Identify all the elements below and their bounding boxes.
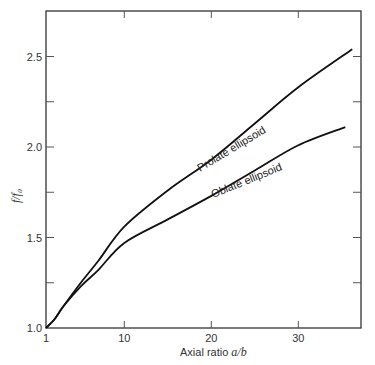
- x-tick-label: 20: [205, 332, 217, 344]
- curves: [46, 49, 352, 328]
- annotation-oblate-ellipsoid: Oblate ellipsoid: [209, 161, 283, 200]
- curve-prolate-ellipsoid: [46, 49, 352, 328]
- y-tick-label: 2.0: [27, 141, 42, 153]
- annotation-prolate-ellipsoid: Prolate ellipsoid: [195, 123, 268, 173]
- x-axis-label-var: a/b: [231, 345, 246, 359]
- curve-oblate-ellipsoid: [46, 127, 345, 328]
- y-tick-label: 1.5: [27, 232, 42, 244]
- y-tick-label: 1.0: [27, 322, 42, 334]
- x-axis-label-text: Axial ratio: [180, 346, 231, 358]
- y-axis-label: f/f₀: [9, 189, 23, 203]
- x-tick-label: 30: [292, 332, 304, 344]
- x-tick-label: 10: [118, 332, 130, 344]
- ticks: 11020301.01.52.02.5: [27, 11, 361, 344]
- y-tick-label: 2.5: [27, 51, 42, 63]
- x-tick-label: 1: [43, 332, 49, 344]
- x-axis-label: Axial ratio a/b: [180, 345, 247, 359]
- chart: 11020301.01.52.02.5 Prolate ellipsoid Ob…: [0, 0, 375, 365]
